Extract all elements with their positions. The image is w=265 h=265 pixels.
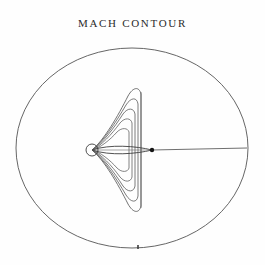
figure-canvas: MACH CONTOUR <box>0 0 265 265</box>
wake-line <box>152 148 247 150</box>
trailing-edge-marker <box>150 148 154 152</box>
mach-contour-plot <box>0 0 265 265</box>
